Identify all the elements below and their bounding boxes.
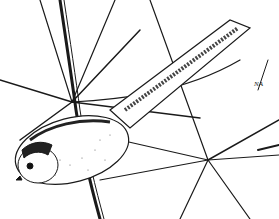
artist-signature: NA	[254, 80, 263, 88]
branches-and-bird-drawing	[0, 0, 279, 219]
bird-illustration: NA	[0, 0, 279, 219]
